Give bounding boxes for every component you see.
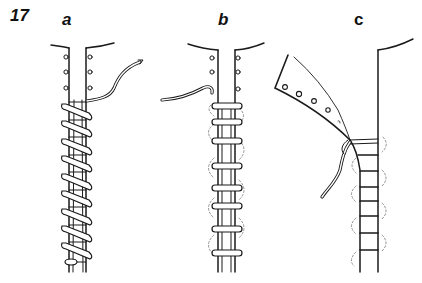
- ladder-stitches: [358, 155, 378, 250]
- stitch-diagram: [0, 0, 422, 283]
- panel-b: [162, 43, 264, 272]
- panel-a: [51, 43, 143, 272]
- panel-c: [275, 39, 413, 272]
- diagonal-stitches: [62, 104, 92, 265]
- horizontal-stitches: [212, 103, 242, 256]
- flap-holes: [283, 85, 340, 123]
